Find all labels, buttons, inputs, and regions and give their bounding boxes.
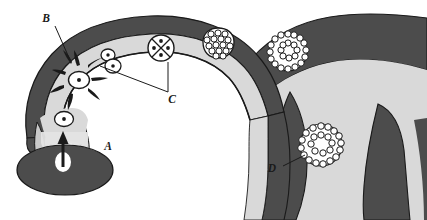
biology-diagram-svg: B C A D (0, 0, 427, 220)
stage-ookinete-in-lumen (55, 112, 74, 127)
stage-multinucleate-oocyst (203, 28, 234, 59)
label-d: D (267, 162, 277, 174)
midgut-right-descender-light (244, 116, 268, 220)
label-a: A (103, 140, 112, 152)
figure-canvas: B C A D (0, 0, 427, 220)
stage-four-nuclei-oocyst (148, 35, 174, 61)
label-c: C (168, 93, 176, 105)
stage-mature-oocyst-rosette (267, 31, 309, 72)
label-b: B (41, 12, 50, 24)
